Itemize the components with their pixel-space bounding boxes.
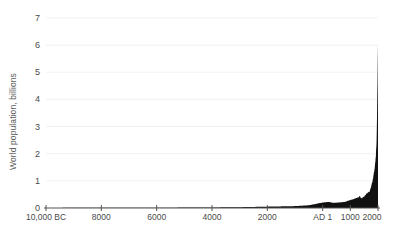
gridlines <box>46 18 378 181</box>
population-area-series <box>46 44 378 208</box>
plot-area <box>0 0 396 245</box>
world-population-chart: World population, billions 01234567 10,0… <box>0 0 396 245</box>
